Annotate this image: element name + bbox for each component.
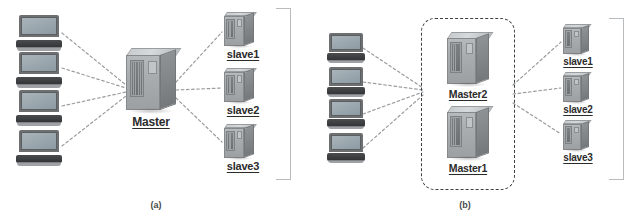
laptop-lid <box>19 90 59 112</box>
laptop-lid <box>329 99 362 118</box>
server-side-face <box>581 25 589 54</box>
laptop-lid <box>19 130 59 152</box>
server-side-face <box>244 125 254 158</box>
laptop-foot <box>328 94 364 97</box>
laptop-foot <box>17 122 61 126</box>
laptop-icon <box>327 133 365 163</box>
server-panel <box>574 127 578 133</box>
server-side-face <box>581 121 589 150</box>
server-panel <box>574 31 578 37</box>
laptop-lid <box>329 33 362 52</box>
laptop-icon <box>16 90 62 126</box>
server-shadow <box>128 108 174 114</box>
laptop-screen <box>331 135 360 150</box>
laptop-screen <box>331 101 360 116</box>
master1-label: Master1 <box>430 162 506 174</box>
server-side-face <box>244 69 254 102</box>
server-front-face <box>126 55 160 110</box>
server-shadow <box>449 156 488 161</box>
slave-server-icon <box>563 24 589 54</box>
master2-label: Master2 <box>430 88 506 100</box>
server-panel <box>466 117 473 128</box>
master-label: Master <box>113 115 189 129</box>
laptop-icon <box>16 15 62 51</box>
master2-server-icon <box>447 32 489 84</box>
server-side-face <box>476 107 489 158</box>
laptop-screen <box>21 54 57 72</box>
laptop-lid <box>329 133 362 152</box>
server-front-face <box>447 112 476 158</box>
slave-server-icon <box>563 72 589 102</box>
server-drive-bays <box>226 75 234 95</box>
laptop-screen <box>21 132 57 150</box>
laptop-screen <box>331 69 360 84</box>
server-front-face <box>224 16 244 46</box>
laptop-icon <box>327 99 365 129</box>
laptop-screen <box>331 35 360 50</box>
laptop-lid <box>19 52 59 74</box>
server-panel <box>237 75 242 82</box>
server-drive-bays <box>565 30 572 48</box>
server-drive-bays <box>450 116 462 148</box>
laptop-icon <box>327 67 365 97</box>
panel-b: Master2 Master1 slave1 <box>317 0 635 224</box>
server-front-face <box>563 124 581 150</box>
laptop-foot <box>328 60 364 63</box>
panel-b-caption: (b) <box>437 200 493 210</box>
slave1-label: slave1 <box>212 48 274 60</box>
slave-server-icon <box>563 120 589 150</box>
server-panel <box>237 131 242 138</box>
laptop-lid <box>19 15 59 37</box>
server-side-face <box>160 50 176 110</box>
server-shadow <box>449 82 488 87</box>
laptop-icon <box>327 33 365 63</box>
laptop-icon <box>16 52 62 88</box>
server-front-face <box>224 72 244 102</box>
slave-server-icon <box>224 68 254 102</box>
panel-a: Master slave1 slave2 <box>0 0 317 224</box>
server-panel <box>574 79 578 85</box>
laptop-screen <box>21 17 57 35</box>
panel-a-caption: (a) <box>128 200 184 210</box>
laptop-screen <box>21 92 57 110</box>
server-drive-bays <box>226 19 234 39</box>
server-drive-bays <box>565 78 572 96</box>
server-front-face <box>224 128 244 158</box>
server-drive-bays <box>565 126 572 144</box>
laptop-foot <box>17 162 61 166</box>
slave3-label: slave3 <box>549 152 607 163</box>
server-panel <box>148 61 157 75</box>
server-drive-bays <box>450 42 462 74</box>
server-side-face <box>244 13 254 46</box>
server-panel <box>466 43 473 54</box>
laptop-foot <box>17 84 61 88</box>
laptop-foot <box>328 160 364 163</box>
slave-server-icon <box>224 124 254 158</box>
master-server-icon <box>126 48 176 110</box>
slaves-group-bracket <box>609 18 624 180</box>
laptop-foot <box>17 47 61 51</box>
slave1-label: slave1 <box>549 56 607 67</box>
laptop-icon <box>16 130 62 166</box>
figure-canvas: Master slave1 slave2 <box>0 0 635 224</box>
server-drive-bays <box>130 60 145 98</box>
server-front-face <box>563 76 581 102</box>
master1-server-icon <box>447 106 489 158</box>
slave2-label: slave2 <box>549 104 607 115</box>
laptop-lid <box>329 67 362 86</box>
server-front-face <box>563 28 581 54</box>
server-panel <box>237 19 242 26</box>
server-side-face <box>581 73 589 102</box>
slave-server-icon <box>224 12 254 46</box>
server-side-face <box>476 33 489 84</box>
server-drive-bays <box>226 131 234 151</box>
slaves-group-bracket <box>276 8 291 180</box>
laptop-foot <box>328 126 364 129</box>
slave2-label: slave2 <box>212 104 274 116</box>
slave3-label: slave3 <box>212 160 274 172</box>
server-front-face <box>447 38 476 84</box>
